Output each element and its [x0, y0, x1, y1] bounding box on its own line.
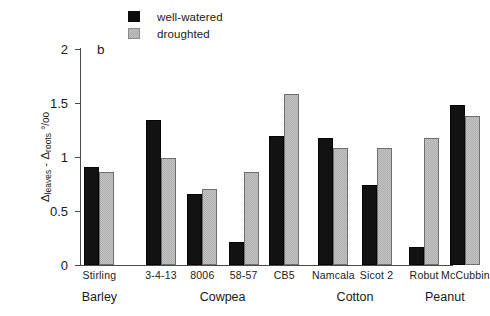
gray-hatched-square-icon	[128, 28, 140, 39]
x-axis-line	[80, 265, 453, 266]
x-axis-group-labels: BarleyCowpeaCottonPeanut	[80, 291, 453, 307]
bar-namcala-droughted	[333, 148, 348, 265]
bar-mccubbin-well-watered	[450, 105, 465, 265]
plot-area: 00.511.52 Δleaves - Δroots °/oo	[80, 49, 453, 265]
chart-legend: well-watered droughted	[128, 8, 328, 42]
bar-8006-well-watered	[187, 194, 202, 265]
x-group-label-cowpea: Cowpea	[200, 291, 246, 304]
bar-58-57-droughted	[244, 172, 259, 265]
bar-3-4-13-well-watered	[146, 120, 161, 265]
bar-robut-well-watered	[409, 247, 424, 265]
x-label-sicot-2: Sicot 2	[360, 270, 394, 281]
y-tick-label-3: 1.5	[50, 97, 68, 110]
x-label-mccubbin: McCubbin	[441, 270, 490, 281]
x-label-cb5: CB5	[274, 270, 295, 281]
y-tick-label-4: 2	[61, 43, 68, 56]
y-axis-title: Δleaves - Δroots °/oo	[40, 112, 52, 202]
bar-robut-droughted	[424, 138, 439, 265]
bar-series-container	[80, 49, 453, 265]
bar-cb5-well-watered	[269, 136, 284, 265]
legend-item-droughted: droughted	[128, 25, 328, 42]
legend-label-droughted: droughted	[157, 28, 210, 40]
bar-stirling-droughted	[99, 172, 114, 265]
x-label-robut: Robut	[410, 270, 439, 281]
y-tick-label-1: 0.5	[50, 205, 68, 218]
x-group-label-cotton: Cotton	[337, 291, 374, 304]
black-square-icon	[128, 11, 140, 22]
bar-stirling-well-watered	[84, 167, 99, 265]
bar-sicot-2-droughted	[377, 148, 392, 265]
x-label-stirling: Stirling	[83, 270, 117, 281]
x-label-namcala: Namcala	[312, 270, 355, 281]
x-group-label-barley: Barley	[82, 291, 117, 304]
x-label-8006: 8006	[190, 270, 214, 281]
y-tick-label-2: 1	[61, 151, 68, 164]
bar-sicot-2-well-watered	[362, 185, 377, 265]
x-label-58-57: 58-57	[230, 270, 258, 281]
bar-3-4-13-droughted	[161, 158, 176, 265]
bar-mccubbin-droughted	[465, 116, 480, 265]
bar-8006-droughted	[202, 189, 217, 265]
y-tick-0	[75, 265, 81, 266]
bar-namcala-well-watered	[318, 138, 333, 265]
legend-label-well-watered: well-watered	[157, 11, 223, 23]
x-group-label-peanut: Peanut	[425, 291, 465, 304]
x-label-3-4-13: 3-4-13	[145, 270, 177, 281]
y-tick-label-0: 0	[61, 259, 68, 272]
legend-item-well-watered: well-watered	[128, 8, 328, 25]
x-axis-category-labels: Stirling3-4-13800658-57CB5NamcalaSicot 2…	[80, 270, 453, 286]
bar-cb5-droughted	[284, 94, 299, 265]
bar-58-57-well-watered	[229, 242, 244, 265]
